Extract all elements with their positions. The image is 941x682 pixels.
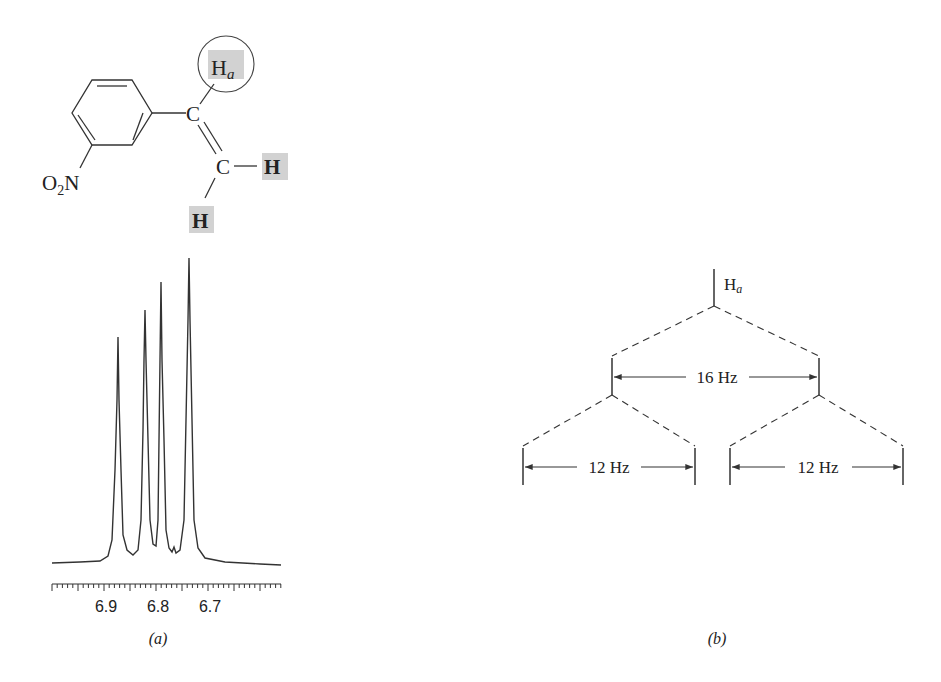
bond-c1-c2-a bbox=[198, 125, 216, 154]
h-right-atom-label: H bbox=[264, 155, 280, 179]
bond-ring-n bbox=[80, 145, 92, 168]
bond-c2-h-bottom bbox=[205, 178, 215, 198]
molecule-structure bbox=[72, 80, 257, 198]
tick-label-6-9: 6.9 bbox=[95, 598, 117, 615]
benzene-ring bbox=[72, 80, 152, 145]
bond-c1-ha bbox=[200, 84, 214, 104]
h-bottom-atom-label: H bbox=[192, 209, 208, 233]
nmr-spectrum bbox=[52, 258, 281, 565]
coupling-12hz-left-label: 12 Hz bbox=[588, 458, 630, 477]
c1-atom-label: C bbox=[186, 102, 200, 126]
nitro-group-label: O2N bbox=[42, 171, 79, 198]
tick-label-6-7: 6.7 bbox=[199, 598, 221, 615]
coupling-arrows bbox=[525, 377, 901, 467]
tree-root-label: Ha bbox=[724, 275, 742, 296]
figure-canvas: Ha C C H H O2N 6.9 6.8 6.7 (a) bbox=[0, 0, 941, 682]
coupling-12hz-right-label: 12 Hz bbox=[797, 458, 839, 477]
coupling-16hz-label: 16 Hz bbox=[696, 368, 738, 387]
c2-atom-label: C bbox=[216, 155, 230, 179]
panel-b-caption: (b) bbox=[708, 630, 727, 648]
x-axis bbox=[52, 584, 281, 591]
tick-label-6-8: 6.8 bbox=[147, 598, 169, 615]
panel-a-caption: (a) bbox=[149, 630, 168, 648]
spectrum-trace bbox=[52, 258, 281, 565]
bond-c1-c2-b bbox=[204, 122, 222, 151]
